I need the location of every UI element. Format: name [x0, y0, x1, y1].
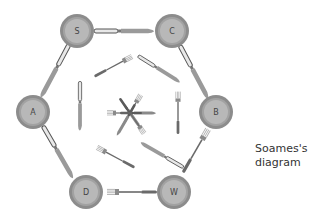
knife-icon — [140, 141, 184, 169]
knife-icon — [78, 81, 82, 130]
knife-icon — [39, 43, 71, 98]
plate-s: S — [60, 14, 94, 48]
knife-icon — [41, 125, 75, 179]
soames-diagram: S C B W D A — [0, 0, 310, 222]
plate-a: A — [16, 95, 50, 129]
plate-label-b: B — [213, 108, 219, 117]
fork-icon — [107, 110, 142, 115]
diagram-caption: Soames's diagram — [255, 142, 307, 170]
plate-label-d: D — [83, 188, 89, 197]
plate-b: B — [199, 95, 233, 129]
caption-line-2: diagram — [255, 156, 307, 170]
knife-icon — [178, 44, 210, 99]
fork-icon — [93, 54, 133, 79]
plate-label-s: S — [74, 27, 79, 36]
center-cutlery — [107, 94, 156, 137]
caption-line-1: Soames's — [255, 142, 307, 156]
plate-label-c: C — [169, 27, 175, 36]
fork-icon — [175, 92, 180, 135]
knife-icon — [94, 29, 154, 34]
knife-icon — [137, 54, 181, 83]
plate-label-a: A — [30, 108, 36, 117]
fork-icon — [96, 145, 136, 170]
fork-icon — [107, 189, 157, 195]
plate-d: D — [69, 175, 103, 209]
plate-label-w: W — [170, 188, 178, 197]
fork-icon — [180, 128, 210, 174]
plate-w: W — [157, 175, 191, 209]
plate-c: C — [155, 14, 189, 48]
